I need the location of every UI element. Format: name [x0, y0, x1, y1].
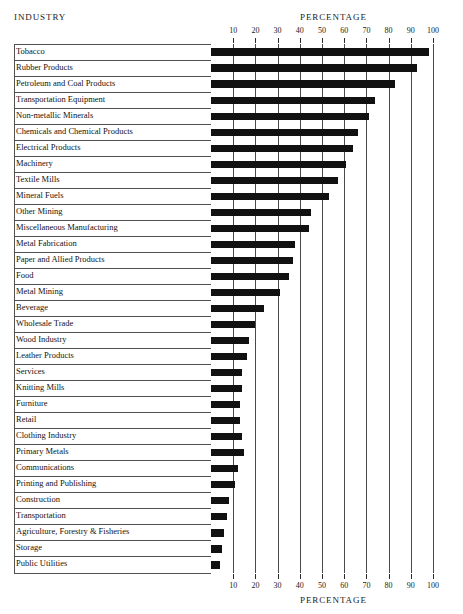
row-separator — [14, 396, 211, 397]
x-tick-bottom-70 — [366, 574, 367, 579]
bar — [211, 145, 353, 152]
category-label-column: TobaccoRubber ProductsPetroleum and Coal… — [14, 44, 211, 573]
row-separator — [14, 316, 211, 317]
bar — [211, 353, 247, 360]
bar — [211, 513, 227, 520]
gridline-90 — [411, 44, 412, 573]
category-label: Public Utilities — [16, 558, 67, 568]
bar — [211, 417, 240, 424]
category-label: Primary Metals — [16, 446, 69, 456]
category-label: Communications — [16, 462, 74, 472]
percentage-axis-title-bottom: PERCENTAGE — [300, 595, 367, 605]
row-separator — [14, 508, 211, 509]
horizontal-bar-chart: INDUSTRY PERCENTAGE PERCENTAGE 102030405… — [0, 0, 463, 614]
category-label: Leather Products — [16, 350, 74, 360]
row-separator — [14, 348, 211, 349]
bar — [211, 529, 224, 536]
category-label: Chemicals and Chemical Products — [16, 126, 133, 136]
bar — [211, 241, 295, 248]
gridline-70 — [366, 44, 367, 573]
bar — [211, 449, 244, 456]
row-separator — [14, 172, 211, 173]
bar — [211, 337, 249, 344]
row-separator — [14, 412, 211, 413]
x-tick-top-90 — [411, 38, 412, 43]
category-label: Knitting Mills — [16, 382, 64, 392]
row-separator — [14, 140, 211, 141]
x-tick-label-bottom-100: 100 — [420, 581, 446, 590]
gridline-100 — [433, 44, 434, 573]
category-label: Paper and Allied Products — [16, 254, 105, 264]
row-separator — [14, 156, 211, 157]
x-tick-bottom-80 — [389, 574, 390, 579]
bar — [211, 257, 293, 264]
category-label: Transportation — [16, 510, 66, 520]
x-tick-bottom-100 — [433, 574, 434, 579]
bar — [211, 497, 229, 504]
gridline-80 — [389, 44, 390, 573]
x-tick-bottom-10 — [233, 574, 234, 579]
bar — [211, 305, 264, 312]
bar — [211, 64, 417, 71]
x-tick-bottom-50 — [322, 574, 323, 579]
category-label: Metal Fabrication — [16, 238, 77, 248]
x-tick-top-40 — [300, 38, 301, 43]
x-tick-bottom-90 — [411, 574, 412, 579]
category-label: Agriculture, Forestry & Fisheries — [16, 526, 129, 536]
bar — [211, 225, 309, 232]
bar — [211, 273, 289, 280]
row-separator — [14, 460, 211, 461]
category-label: Metal Mining — [16, 286, 63, 296]
row-separator — [14, 540, 211, 541]
row-separator — [14, 76, 211, 77]
x-tick-top-70 — [366, 38, 367, 43]
row-separator — [14, 380, 211, 381]
category-label: Tobacco — [16, 46, 45, 56]
x-tick-top-10 — [233, 38, 234, 43]
row-separator — [14, 220, 211, 221]
category-label: Wood Industry — [16, 334, 67, 344]
category-label: Petroleum and Coal Products — [16, 78, 115, 88]
row-separator — [14, 332, 211, 333]
row-separator — [14, 252, 211, 253]
row-separator — [14, 300, 211, 301]
row-separator — [14, 444, 211, 445]
row-separator — [14, 268, 211, 269]
bar — [211, 113, 369, 120]
x-tick-bottom-20 — [255, 574, 256, 579]
bar — [211, 129, 358, 136]
category-label: Mineral Fuels — [16, 190, 63, 200]
bar — [211, 97, 375, 104]
row-separator — [14, 428, 211, 429]
row-separator — [14, 492, 211, 493]
bar — [211, 161, 346, 168]
x-tick-bottom-40 — [300, 574, 301, 579]
bar — [211, 48, 429, 55]
industry-column-header: INDUSTRY — [14, 12, 66, 22]
x-tick-top-100 — [433, 38, 434, 43]
category-label: Storage — [16, 542, 42, 552]
row-separator — [14, 124, 211, 125]
category-label: Services — [16, 366, 45, 376]
x-tick-top-30 — [278, 38, 279, 43]
row-separator — [14, 573, 211, 574]
bar — [211, 177, 338, 184]
row-separator — [14, 60, 211, 61]
category-label: Non-metallic Minerals — [16, 110, 93, 120]
category-label: Electrical Products — [16, 142, 80, 152]
bar — [211, 433, 242, 440]
category-label: Other Mining — [16, 206, 63, 216]
bar — [211, 481, 235, 488]
category-label: Transportation Equipment — [16, 94, 105, 104]
row-separator — [14, 284, 211, 285]
bar — [211, 321, 255, 328]
bar — [211, 80, 395, 87]
row-separator — [14, 204, 211, 205]
category-label: Construction — [16, 494, 60, 504]
gridline-60 — [344, 44, 345, 573]
bar — [211, 561, 220, 568]
x-tick-top-60 — [344, 38, 345, 43]
category-label: Clothing Industry — [16, 430, 76, 440]
bar — [211, 385, 242, 392]
category-label: Food — [16, 270, 33, 280]
